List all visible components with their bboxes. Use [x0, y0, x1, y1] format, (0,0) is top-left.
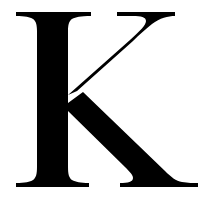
- letter-canvas: K: [0, 0, 206, 203]
- upper-arm: [68, 12, 175, 95]
- letter-k-glyph: [0, 0, 206, 203]
- lower-leg: [68, 92, 198, 187]
